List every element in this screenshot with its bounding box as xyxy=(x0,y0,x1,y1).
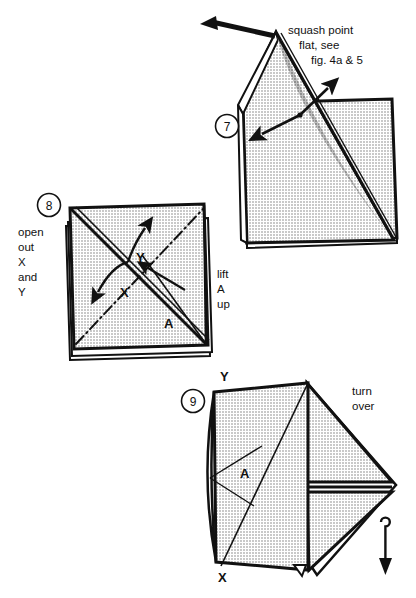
turn-over-line-1: turn xyxy=(352,385,372,397)
turn-over-line-2: over xyxy=(352,400,375,412)
open-out-line-2: out xyxy=(18,241,35,253)
open-out-line-4: and xyxy=(18,271,37,283)
open-out-line-1: open xyxy=(18,226,44,238)
lift-a-line-2: A xyxy=(217,283,225,295)
origami-diagram-sheet: 7 squash point flat, see fig. 4a & 5 X xyxy=(0,0,416,598)
fig8-label-y: Y xyxy=(136,250,145,265)
step-7-label: 7 xyxy=(224,120,231,134)
squash-caption-line-1: squash point xyxy=(288,24,354,36)
open-out-line-5: Y xyxy=(18,286,26,298)
lift-a-line-3: up xyxy=(217,298,230,310)
lift-a-line-1: lift xyxy=(217,268,229,280)
step-9-label: 9 xyxy=(190,395,197,409)
fig8-label-a: A xyxy=(164,316,174,331)
squash-pivot-dot xyxy=(297,112,302,117)
open-out-line-3: X xyxy=(18,256,26,268)
fig9-label-x: X xyxy=(218,570,227,585)
fig9-label-a: A xyxy=(240,466,250,481)
squash-caption-line-3: fig. 4a & 5 xyxy=(311,54,363,66)
step-8-label: 8 xyxy=(46,199,53,213)
squash-caption-line-2: flat, see xyxy=(299,39,339,51)
step-number-8: 8 xyxy=(38,194,61,217)
step-number-7: 7 xyxy=(216,115,239,138)
step-number-9: 9 xyxy=(182,390,205,413)
fig9-label-y: Y xyxy=(220,369,229,384)
fig8-label-x: X xyxy=(120,285,129,300)
